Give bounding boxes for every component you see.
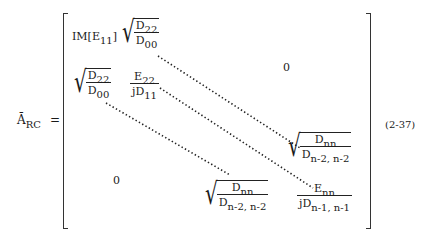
num-sub: 22 bbox=[97, 74, 110, 85]
den-sub: n-2, n-2 bbox=[228, 201, 267, 212]
den-sub: n-1, n-1 bbox=[311, 202, 350, 213]
den-base: D bbox=[302, 148, 311, 161]
num-base: E bbox=[314, 182, 322, 195]
sqrt-icon: √ bbox=[122, 16, 135, 46]
num-sub: nn bbox=[241, 186, 254, 197]
equation-number: (2-37) bbox=[385, 120, 415, 130]
den-base: jD bbox=[299, 197, 311, 210]
den-base: jD bbox=[132, 85, 144, 98]
im-prefix: IM[ bbox=[72, 30, 92, 43]
entry-sqrt-dnn-upper: √ Dnn Dn-2, n-2 bbox=[288, 132, 351, 160]
den-sub: n-2, n-2 bbox=[311, 153, 350, 164]
den-base: D bbox=[219, 196, 228, 209]
den-sub: 00 bbox=[97, 89, 110, 100]
den-base: D bbox=[136, 34, 145, 47]
entry-sqrt-d22-d00-r1: √ D22 D00 bbox=[122, 18, 159, 46]
den-sub: 11 bbox=[144, 90, 157, 101]
entry-sqrt-d22-d00-r2: √ D22 D00 bbox=[74, 68, 111, 96]
num-sub: nn bbox=[324, 138, 337, 149]
num-base: D bbox=[232, 181, 241, 194]
num-base: D bbox=[88, 69, 97, 82]
num-base: E bbox=[134, 70, 142, 83]
entry-e22-jd11: E22 jD11 bbox=[130, 71, 159, 97]
den-base: D bbox=[88, 84, 97, 97]
entry-enn-jdn1: Enn jDn-1, n-1 bbox=[297, 183, 352, 209]
entry-sqrt-dnn-lower: √ Dnn Dn-2, n-2 bbox=[205, 180, 268, 208]
num-base: D bbox=[136, 19, 145, 32]
sqrt-icon: √ bbox=[205, 178, 218, 208]
sqrt-icon: √ bbox=[288, 130, 301, 160]
upper-zero: 0 bbox=[283, 62, 290, 73]
im-suffix: ] bbox=[113, 30, 117, 43]
e-sub: 11 bbox=[100, 35, 113, 46]
num-sub: 22 bbox=[145, 24, 158, 35]
sqrt-icon: √ bbox=[74, 66, 87, 96]
den-sub: 00 bbox=[145, 39, 158, 50]
num-base: D bbox=[315, 133, 324, 146]
num-sub: nn bbox=[322, 187, 335, 198]
lower-zero: 0 bbox=[113, 175, 120, 186]
num-sub: 22 bbox=[142, 75, 155, 86]
e-base: E bbox=[92, 30, 100, 43]
entry-im-e11: IM[E11] bbox=[72, 31, 117, 42]
